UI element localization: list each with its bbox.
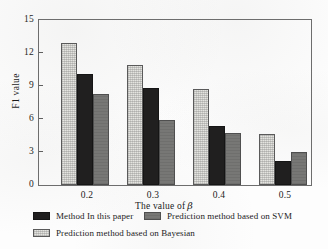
bar-bayesian-0.2 bbox=[61, 43, 77, 185]
legend-swatch-svm-icon bbox=[144, 212, 161, 220]
legend-swatch-bayesian-icon bbox=[33, 229, 50, 237]
bar-paper-0.2 bbox=[77, 74, 93, 185]
beta-symbol: β bbox=[185, 200, 193, 211]
bar-paper-0.4 bbox=[209, 126, 225, 185]
x-tick-label-0.3: 0.3 bbox=[133, 190, 173, 200]
y-tick-label-3: 3 bbox=[8, 147, 34, 156]
bar-bayesian-0.3 bbox=[127, 65, 143, 185]
legend-row-1: Method In this paper Prediction method b… bbox=[0, 211, 328, 228]
x-axis-title: The value ofβ bbox=[0, 200, 328, 211]
x-tick-label-0.4: 0.4 bbox=[199, 190, 239, 200]
x-axis-title-text: The value of bbox=[135, 201, 185, 211]
legend-row-2: Prediction method based on Bayesian bbox=[0, 228, 328, 245]
x-tick-label-0.2: 0.2 bbox=[67, 190, 107, 200]
bar-svm-0.3 bbox=[159, 120, 175, 185]
bar-svm-0.2 bbox=[93, 94, 109, 185]
legend-label-bayesian: Prediction method based on Bayesian bbox=[56, 228, 195, 238]
bar-group-0.4 bbox=[193, 20, 245, 185]
bar-paper-0.5 bbox=[275, 161, 291, 185]
y-tick-label-15: 15 bbox=[8, 15, 34, 24]
bar-svm-0.5 bbox=[291, 152, 307, 185]
x-tick-label-0.5: 0.5 bbox=[265, 190, 305, 200]
legend-label-paper: Method In this paper bbox=[56, 211, 133, 221]
bar-group-0.3 bbox=[127, 20, 179, 185]
legend-item-bayesian: Prediction method based on Bayesian bbox=[33, 228, 195, 238]
bar-svm-0.4 bbox=[225, 133, 241, 185]
y-axis-title: F1 value bbox=[11, 51, 21, 131]
bar-group-0.2 bbox=[61, 20, 113, 185]
bar-paper-0.3 bbox=[143, 88, 159, 185]
bar-group-0.5 bbox=[259, 20, 311, 185]
legend-item-svm: Prediction method based on SVM bbox=[144, 211, 292, 221]
bar-groups bbox=[39, 20, 311, 185]
y-tick-label-0: 0 bbox=[8, 180, 34, 189]
legend-label-svm: Prediction method based on SVM bbox=[167, 211, 292, 221]
legend-item-paper: Method In this paper bbox=[33, 211, 133, 221]
figure-bar-chart: 15 12 9 6 3 0 F1 value bbox=[0, 0, 328, 249]
bar-bayesian-0.5 bbox=[259, 134, 275, 185]
chart-legend: Method In this paper Prediction method b… bbox=[0, 211, 328, 245]
legend-swatch-paper-icon bbox=[33, 212, 50, 220]
bar-bayesian-0.4 bbox=[193, 89, 209, 185]
